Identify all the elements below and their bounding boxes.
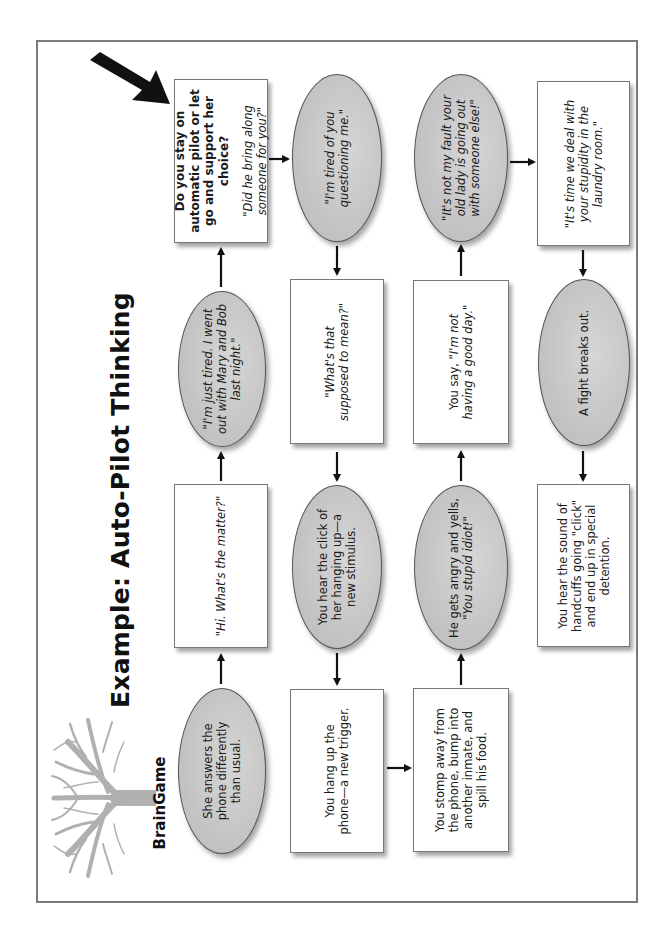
connector-arrows: [0, 0, 670, 930]
